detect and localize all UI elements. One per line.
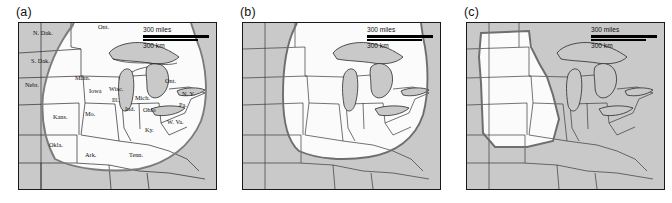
state-label: Ohio xyxy=(143,106,156,113)
scalebar-km-bar xyxy=(143,39,198,42)
map-panel-b: (b) xyxy=(224,0,448,203)
state-label: N. Dak. xyxy=(33,29,53,36)
state-label: Minn. xyxy=(75,74,91,81)
state-label: Iowa xyxy=(89,87,102,94)
scalebar-miles-bar xyxy=(367,35,433,38)
state-label: Ind. xyxy=(125,105,135,112)
scalebar-km-label: 300 km xyxy=(365,42,435,50)
scalebar-miles-bar xyxy=(591,35,657,38)
scalebar-km-label: 300 km xyxy=(589,42,659,50)
state-label: Nebr. xyxy=(25,81,39,88)
state-label: Okla. xyxy=(49,141,63,148)
state-label: Ill. xyxy=(112,96,120,103)
three-panel-map-figure: (a) xyxy=(0,0,672,203)
panel-c-map-frame: 300 miles 300 km xyxy=(466,22,665,190)
panel-c-great-lakes xyxy=(557,42,653,115)
panel-b-map-frame: 300 miles 300 km xyxy=(242,22,441,190)
state-label: Ky. xyxy=(145,126,154,133)
state-label: W. Va. xyxy=(167,118,184,125)
panel-a-map-frame: N. Dak. Ont. S. Dak. Nebr. Minn. Iowa Wi… xyxy=(18,22,217,190)
panel-b-scalebar: 300 miles 300 km xyxy=(365,26,435,52)
scalebar-miles-label: 300 miles xyxy=(589,26,659,34)
state-label: Ont. xyxy=(98,23,109,30)
panel-c-scalebar: 300 miles 300 km xyxy=(589,26,659,52)
state-label: Pa. xyxy=(179,101,187,108)
map-panel-c: (c) xyxy=(448,0,672,203)
state-label: Ont. xyxy=(165,77,176,84)
scalebar-km-bar xyxy=(591,39,646,42)
state-label: N. Y. xyxy=(182,90,195,97)
state-label: S. Dak. xyxy=(31,57,50,64)
scalebar-km-label: 300 km xyxy=(141,42,211,50)
panel-a-scalebar: 300 miles 300 km xyxy=(141,26,211,52)
panel-a-label: (a) xyxy=(16,5,32,19)
state-label: Mich. xyxy=(135,94,150,101)
scalebar-miles-label: 300 miles xyxy=(141,26,211,34)
scalebar-miles-bar xyxy=(143,35,209,38)
state-label: Ark. xyxy=(85,151,97,158)
state-label: Mo. xyxy=(85,110,96,117)
panel-c-label: (c) xyxy=(464,5,479,19)
state-label: Wisc. xyxy=(109,85,124,92)
panel-b-label: (b) xyxy=(240,5,256,19)
state-label: Kans. xyxy=(53,113,68,120)
scalebar-miles-label: 300 miles xyxy=(365,26,435,34)
scalebar-km-bar xyxy=(367,39,422,42)
state-label: Tenn. xyxy=(129,151,143,158)
map-panel-a: (a) xyxy=(0,0,224,203)
